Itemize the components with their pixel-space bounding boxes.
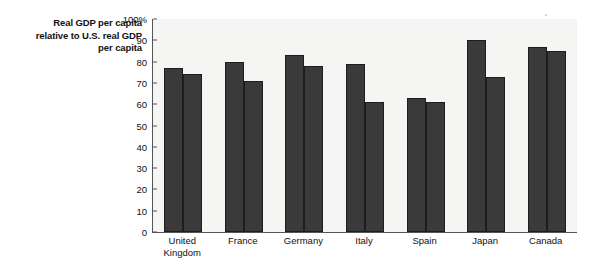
bar-spain-1990[interactable] bbox=[407, 98, 426, 232]
bar-spain-2012[interactable] bbox=[426, 102, 445, 232]
x-axis-label-line: Canada bbox=[516, 235, 576, 247]
x-axis-label-line: United bbox=[152, 235, 212, 247]
x-axis-label-france: France bbox=[213, 235, 273, 261]
y-axis-tick-label: 80 bbox=[136, 56, 153, 67]
y-axis-tick-label: 50 bbox=[136, 120, 153, 131]
bar-germany-1990[interactable] bbox=[285, 55, 304, 232]
bar-group bbox=[285, 19, 323, 232]
chart-title-line-2: relative to U.S. real GDP bbox=[14, 30, 142, 43]
x-axis-label-line: Kingdom bbox=[152, 247, 212, 259]
x-axis-label-united-kingdom: UnitedKingdom bbox=[152, 235, 212, 261]
bar-group bbox=[225, 19, 263, 232]
x-axis-label-canada: Canada bbox=[516, 235, 576, 261]
y-axis-tick-label: 70 bbox=[136, 77, 153, 88]
x-axis-label-line: Italy bbox=[334, 235, 394, 247]
bar-france-1990[interactable] bbox=[225, 62, 244, 232]
chart-title-line-3: per capita bbox=[14, 42, 142, 55]
bar-france-2012[interactable] bbox=[244, 81, 263, 232]
y-axis-tick-label: 40 bbox=[136, 141, 153, 152]
y-axis-tick-label: 60 bbox=[136, 99, 153, 110]
x-axis-label-spain: Spain bbox=[395, 235, 455, 261]
x-axis-label-line: Japan bbox=[455, 235, 515, 247]
bar-group bbox=[346, 19, 384, 232]
bar-canada-2012[interactable] bbox=[547, 51, 566, 232]
plot-area: 100%9080706050403020100 bbox=[152, 19, 577, 233]
bar-group bbox=[164, 19, 202, 232]
bar-group bbox=[528, 19, 566, 232]
bar-united-kingdom-1990[interactable] bbox=[164, 68, 183, 232]
y-axis-tick-label: 100% bbox=[123, 14, 153, 25]
x-axis-label-germany: Germany bbox=[273, 235, 333, 261]
bar-canada-1990[interactable] bbox=[528, 47, 547, 232]
chart-figure: Real GDP per capita relative to U.S. rea… bbox=[0, 0, 590, 261]
x-axis-label-line: Germany bbox=[273, 235, 333, 247]
x-axis-label-line: France bbox=[213, 235, 273, 247]
x-axis-label-line: Spain bbox=[395, 235, 455, 247]
bar-groups bbox=[153, 19, 577, 232]
bar-group bbox=[407, 19, 445, 232]
y-axis-tick-label: 30 bbox=[136, 163, 153, 174]
bar-italy-1990[interactable] bbox=[346, 64, 365, 232]
bar-germany-2012[interactable] bbox=[304, 66, 323, 232]
y-axis-tick-label: 20 bbox=[136, 184, 153, 195]
x-axis-label-japan: Japan bbox=[455, 235, 515, 261]
x-axis-label-italy: Italy bbox=[334, 235, 394, 261]
x-axis-labels: UnitedKingdomFranceGermanyItalySpainJapa… bbox=[152, 235, 576, 261]
y-axis-tick-label: 10 bbox=[136, 205, 153, 216]
bar-group bbox=[467, 19, 505, 232]
bar-japan-2012[interactable] bbox=[486, 77, 505, 232]
y-axis-tick-label: 90 bbox=[136, 35, 153, 46]
bar-united-kingdom-2012[interactable] bbox=[183, 74, 202, 232]
scan-speck bbox=[545, 14, 547, 16]
bar-japan-1990[interactable] bbox=[467, 40, 486, 232]
bar-italy-2012[interactable] bbox=[365, 102, 384, 232]
